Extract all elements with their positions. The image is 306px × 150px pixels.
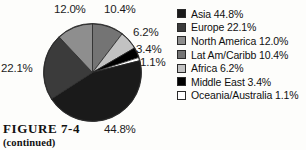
legend-swatch-icon [177, 77, 186, 86]
legend-item: Europe 22.1% [177, 21, 305, 35]
legend-item: Middle East 3.4% [177, 75, 305, 89]
legend-item: Africa 6.2% [177, 61, 305, 75]
legend-swatch-icon [177, 64, 186, 73]
legend-item-label: Africa 6.2% [191, 62, 244, 74]
figure-caption-subtitle: (continued) [3, 137, 80, 149]
legend-swatch-icon [177, 50, 186, 59]
legend-item-label: Lat Am/Caribb 10.4% [191, 49, 288, 61]
pie-chart [43, 23, 142, 122]
legend-item: Oceania/Australia 1.1% [177, 89, 305, 103]
legend-swatch-icon [177, 36, 186, 45]
pct-label-oceania: 1.1% [140, 56, 165, 68]
pct-label-north-america: 12.0% [54, 3, 86, 15]
figure-panel: 12.0% 10.4% 6.2% 3.4% 1.1% 22.1% 44.8% F… [0, 0, 306, 150]
pct-label-asia: 44.8% [104, 123, 136, 135]
pct-label-lat-am-caribb: 10.4% [104, 3, 136, 15]
legend-item-label: Europe 22.1% [191, 21, 256, 33]
legend-item: Asia 44.8% [177, 7, 305, 21]
figure-caption: FIGURE 7-4 (continued) [3, 122, 80, 149]
pct-label-middle-east: 3.4% [136, 43, 161, 55]
legend-item-label: Asia 44.8% [191, 8, 243, 20]
figure-caption-title: FIGURE 7-4 [3, 122, 80, 136]
legend-swatch-icon [177, 23, 186, 32]
legend-item-label: North America 12.0% [191, 35, 288, 47]
pct-label-europe: 22.1% [1, 62, 33, 74]
legend-item-label: Oceania/Australia 1.1% [191, 89, 299, 101]
pct-label-africa: 6.2% [133, 26, 158, 38]
pie-chart-svg [43, 23, 142, 122]
legend-item: North America 12.0% [177, 34, 305, 48]
legend-item: Lat Am/Caribb 10.4% [177, 48, 305, 62]
chart-legend: Asia 44.8%Europe 22.1%North America 12.0… [177, 7, 305, 102]
legend-swatch-icon [177, 91, 186, 100]
legend-item-label: Middle East 3.4% [191, 76, 271, 88]
legend-swatch-icon [177, 9, 186, 18]
